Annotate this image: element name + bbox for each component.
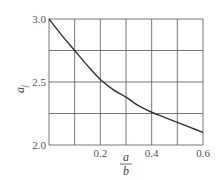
y-tick-labels: 2.02.53.0	[32, 13, 46, 151]
svg-text:aj: aj	[13, 84, 29, 93]
grid-lines	[49, 19, 203, 145]
y-tick-label: 2.5	[32, 76, 46, 88]
y-axis-label: aj	[13, 84, 29, 93]
y-tick-label: 3.0	[32, 13, 46, 25]
x-axis-label-numerator: a	[123, 150, 129, 164]
x-tick-label: 0.6	[196, 147, 210, 159]
x-axis-label: a b	[120, 150, 132, 178]
x-tick-labels: 0.20.40.6	[93, 147, 210, 159]
x-axis-label-denominator: b	[123, 164, 129, 178]
chart: 2.02.53.0 0.20.40.6 aj a b	[0, 0, 222, 180]
y-axis-label-sub: j	[20, 84, 29, 88]
x-tick-label: 0.2	[93, 147, 107, 159]
y-tick-label: 2.0	[32, 139, 46, 151]
x-tick-label: 0.4	[145, 147, 159, 159]
